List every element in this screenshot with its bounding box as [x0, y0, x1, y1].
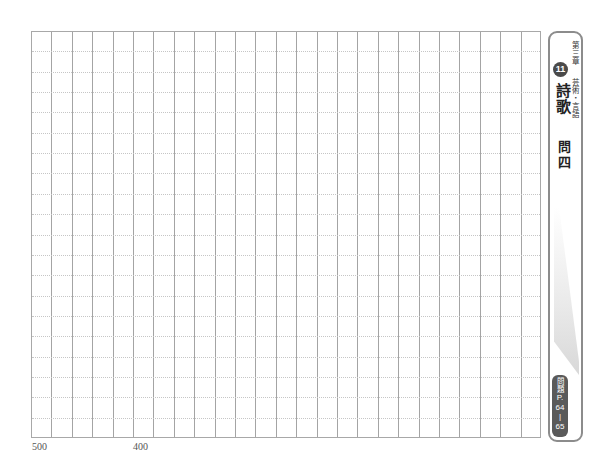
row-guide-line	[32, 194, 540, 195]
row-guide-line	[32, 153, 540, 154]
row-guide-line	[32, 173, 540, 174]
row-guide-line	[32, 72, 540, 73]
chapter-sidebar: 第三章 芸術・言語 11 詩歌 問四 問題 P. 64 | 65	[548, 31, 583, 442]
unit-title: 詩歌	[552, 83, 573, 115]
char-counter-400: 400	[133, 441, 148, 452]
chapter-label: 第三章	[569, 41, 580, 65]
row-guide-line	[32, 235, 540, 236]
row-guide-line	[32, 418, 540, 419]
row-guide-line	[32, 133, 540, 134]
badge-page-start: 64	[556, 403, 565, 413]
decorative-gradient-wedge	[554, 207, 579, 375]
row-guide-line	[32, 275, 540, 276]
char-counter-500: 500	[32, 441, 47, 452]
row-guide-line	[32, 296, 540, 297]
manuscript-grid[interactable]	[31, 31, 541, 438]
unit-number-circle-icon: 11	[553, 62, 568, 77]
row-guide-line	[32, 397, 540, 398]
problem-page-reference-badge: 問題 P. 64 | 65	[552, 375, 568, 437]
row-guide-line	[32, 255, 540, 256]
row-guide-line	[32, 112, 540, 113]
badge-page-end: 65	[556, 422, 565, 432]
row-guide-line	[32, 92, 540, 93]
badge-label: 問題	[556, 377, 565, 393]
row-guide-line	[32, 214, 540, 215]
row-guide-line	[32, 357, 540, 358]
row-guide-line	[32, 336, 540, 337]
badge-separator: |	[559, 412, 561, 422]
question-label: 問四	[554, 140, 573, 172]
row-guide-line	[32, 51, 540, 52]
row-guide-line	[32, 377, 540, 378]
badge-page-prefix: P.	[557, 393, 564, 403]
row-guide-line	[32, 316, 540, 317]
